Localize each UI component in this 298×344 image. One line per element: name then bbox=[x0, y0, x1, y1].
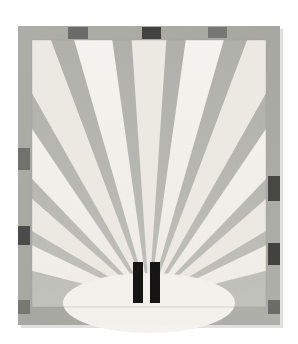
border-dark-square bbox=[268, 176, 280, 201]
border-dark-square bbox=[268, 243, 280, 265]
border-dark-square bbox=[142, 27, 161, 39]
border-dark-square bbox=[268, 300, 280, 314]
image-canvas: Sunburst Quilt Block Square textile quil… bbox=[0, 0, 298, 344]
border-dark-square bbox=[18, 300, 30, 314]
center-bar bbox=[133, 262, 143, 303]
border-dark-square bbox=[208, 27, 227, 38]
border-dark-square bbox=[68, 27, 88, 39]
border-dark-square bbox=[18, 226, 30, 245]
center-bar bbox=[150, 262, 160, 303]
center-glow bbox=[63, 273, 235, 333]
border-dark-square bbox=[18, 148, 30, 170]
sunburst-quilt-artwork bbox=[0, 0, 298, 344]
sunburst-ray-group bbox=[0, 2, 298, 300]
